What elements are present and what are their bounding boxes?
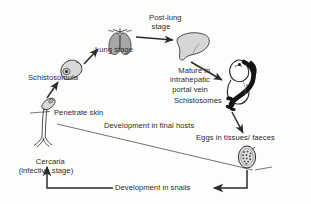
label-cercaria-text: Cercaria (infective stage) — [19, 157, 73, 175]
label-development-snails: Development in snails — [115, 183, 190, 192]
label-penetrate-skin: Penetrate skin — [54, 108, 103, 117]
label-post-lung-stage: Post-lung stage — [135, 4, 187, 41]
skin-line-right — [255, 167, 272, 170]
arrow-worms-to-eggs — [232, 112, 243, 133]
life-cycle-diagram: Post-lung stage Lung stage Schistosomula… — [0, 0, 311, 204]
cercaria-larva-icon — [34, 96, 57, 147]
label-development-final-hosts: Development in final hosts — [104, 121, 194, 130]
label-schistosomula: Schistosomula — [28, 73, 78, 82]
label-post-lung-stage-text: Post-lung stage — [149, 13, 182, 31]
arrow-cercaria-to-schistosomula — [47, 82, 58, 98]
label-lung-stage: Lung stage — [95, 45, 133, 54]
label-eggs-tissues-faeces: Eggs in tissues/ faeces — [196, 133, 275, 142]
paired-worms-icon — [227, 60, 255, 110]
egg-icon — [238, 146, 255, 168]
label-schistosomes: Schistosomes — [174, 96, 222, 105]
label-cercaria: Cercaria (infective stage) — [4, 148, 88, 185]
label-mature-portal-vein-text: Mature in intrahepatic portal vein — [170, 66, 210, 93]
